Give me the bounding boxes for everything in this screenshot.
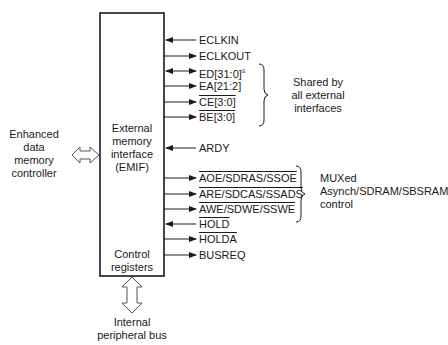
signal-ardy: ARDY bbox=[199, 142, 230, 154]
signal-arrows bbox=[164, 40, 196, 255]
control-registers-label: Control registers bbox=[100, 248, 164, 274]
signal-busreq: BUSREQ bbox=[199, 249, 245, 261]
signal-are: ARE/SDCAS/SSADS bbox=[199, 188, 303, 200]
muxed-group-label: MUXed Asynch/SDRAM/SBSRAM control bbox=[320, 172, 448, 211]
left-bidir-arrow bbox=[72, 147, 99, 163]
shared-group-label: Shared by all external interfaces bbox=[278, 76, 358, 115]
shared-brace bbox=[259, 64, 268, 126]
signal-ea: EA[21:2] bbox=[199, 80, 241, 92]
internal-peripheral-bus-label: Internal peripheral bus bbox=[92, 316, 172, 342]
signal-ed: ED[31:0]≤ bbox=[199, 65, 246, 80]
signal-hold: HOLD bbox=[199, 218, 230, 230]
signal-aoe: AOE/SDRAS/SSOE bbox=[199, 172, 297, 184]
signal-eclkout: ECLKOUT bbox=[199, 50, 251, 62]
signal-ce: CE[3:0] bbox=[199, 96, 236, 108]
bottom-bidir-arrow bbox=[122, 277, 142, 313]
signal-holda: HOLDA bbox=[199, 233, 237, 245]
signal-be: BE[3:0] bbox=[199, 111, 235, 123]
emif-title: External memory interface (EMIF) bbox=[100, 122, 164, 174]
signal-eclkin: ECLKIN bbox=[199, 34, 239, 46]
signal-awe: AWE/SDWE/SSWE bbox=[199, 203, 295, 215]
enhanced-dma-controller-label: Enhanced data memory controller bbox=[2, 128, 66, 180]
